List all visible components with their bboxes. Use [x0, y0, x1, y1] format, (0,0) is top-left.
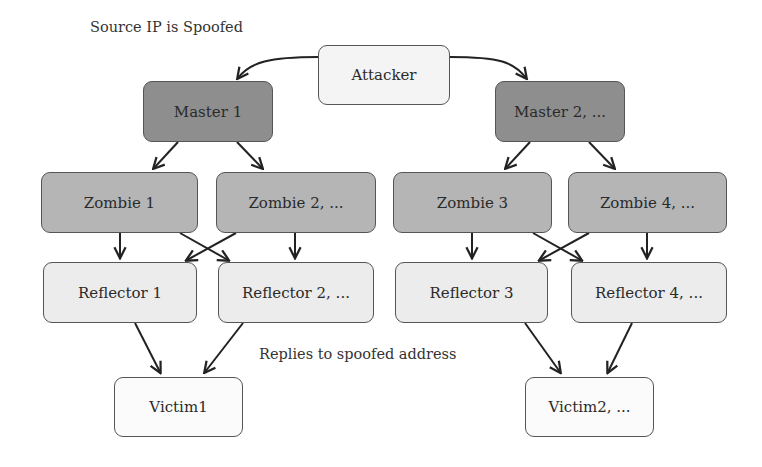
node-reflector-4: Reflector 4, ...: [571, 262, 727, 323]
node-zombie-3-label: Zombie 3: [437, 194, 508, 212]
node-attacker-label: Attacker: [351, 66, 416, 84]
edge-master2-zombie3: [506, 142, 530, 168]
node-reflector-2: Reflector 2, ...: [218, 262, 374, 323]
node-victim-1-label: Victim1: [149, 398, 207, 416]
node-zombie-3: Zombie 3: [393, 172, 552, 233]
edge-reflector4-victim2: [608, 323, 632, 372]
replies-label: Replies to spoofed address: [259, 346, 456, 362]
node-attacker: Attacker: [318, 45, 450, 105]
node-zombie-2: Zombie 2, ...: [216, 172, 376, 233]
edge-master2-zombie4: [589, 142, 614, 168]
edge-reflector2-victim1: [205, 323, 243, 372]
edge-master1-zombie1: [154, 142, 178, 168]
node-victim-2: Victim2, ...: [525, 377, 654, 437]
node-zombie-1: Zombie 1: [41, 172, 198, 233]
node-reflector-3: Reflector 3: [395, 262, 548, 323]
edge-master1-zombie2: [237, 142, 262, 168]
node-reflector-4-label: Reflector 4, ...: [595, 284, 703, 302]
node-victim-2-label: Victim2, ...: [548, 398, 630, 416]
node-master-2-label: Master 2, ...: [514, 103, 606, 121]
edge-reflector3-victim2: [525, 323, 560, 372]
node-reflector-1-label: Reflector 1: [78, 284, 162, 302]
node-victim-1: Victim1: [114, 377, 243, 437]
edge-reflector1-victim1: [135, 323, 160, 372]
edge-attacker-master2: [450, 57, 526, 78]
edge-zombie3-reflector4: [533, 233, 581, 260]
edge-zombie1-reflector2: [180, 233, 228, 260]
ddos-reflection-diagram: Source IP is Spoofed Replies to spoofed …: [0, 0, 762, 467]
node-zombie-4: Zombie 4, ...: [568, 172, 727, 233]
node-zombie-2-label: Zombie 2, ...: [248, 194, 343, 212]
node-reflector-1: Reflector 1: [43, 262, 197, 323]
source-spoofed-label: Source IP is Spoofed: [90, 19, 243, 35]
node-reflector-3-label: Reflector 3: [430, 284, 514, 302]
node-master-2: Master 2, ...: [495, 81, 625, 142]
node-master-1: Master 1: [143, 81, 273, 142]
node-zombie-1-label: Zombie 1: [84, 194, 155, 212]
node-master-1-label: Master 1: [174, 103, 242, 121]
edge-attacker-master1: [238, 57, 318, 78]
node-reflector-2-label: Reflector 2, ...: [242, 284, 350, 302]
node-zombie-4-label: Zombie 4, ...: [600, 194, 695, 212]
edge-zombie4-reflector3: [540, 233, 589, 260]
edge-zombie2-reflector1: [187, 233, 236, 260]
